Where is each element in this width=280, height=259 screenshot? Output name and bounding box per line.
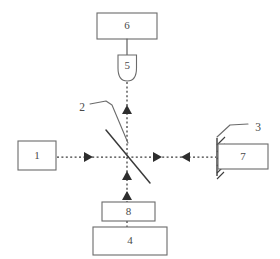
optical-diagram: 1 6 5 2 <box>0 0 280 259</box>
beam-arrowheads <box>84 105 190 200</box>
component-detector-5-label: 5 <box>125 59 131 71</box>
component-box-7[interactable]: 7 <box>218 144 268 169</box>
component-detector-5[interactable]: 5 <box>118 55 137 81</box>
diagram-canvas: 1 6 5 2 <box>0 0 280 259</box>
arrowhead-up-to-detector <box>122 105 132 114</box>
component-box-6-label: 6 <box>124 19 130 31</box>
component-box-8-label: 8 <box>126 205 132 217</box>
arrowhead-right-after-splitter <box>153 152 162 162</box>
arrowhead-right-left-segment <box>84 152 93 162</box>
component-beamsplitter-2[interactable]: 2 <box>79 101 150 183</box>
component-box-1[interactable]: 1 <box>18 141 56 170</box>
component-box-4[interactable]: 4 <box>93 227 167 255</box>
component-box-6[interactable]: 6 <box>97 13 157 39</box>
leader-label-2 <box>90 101 128 143</box>
component-box-1-label: 1 <box>34 149 40 161</box>
component-box-4-label: 4 <box>127 234 133 246</box>
component-box-8[interactable]: 8 <box>102 202 155 221</box>
leader-label-3 <box>217 124 248 137</box>
component-beamsplitter-2-label: 2 <box>79 101 85 113</box>
component-mirror-3-label: 3 <box>255 121 261 133</box>
arrowhead-up-lower-near <box>122 171 132 180</box>
arrowhead-up-lower-far <box>122 191 132 200</box>
arrowhead-left-from-mirror <box>181 152 190 162</box>
component-box-7-label: 7 <box>240 150 246 162</box>
